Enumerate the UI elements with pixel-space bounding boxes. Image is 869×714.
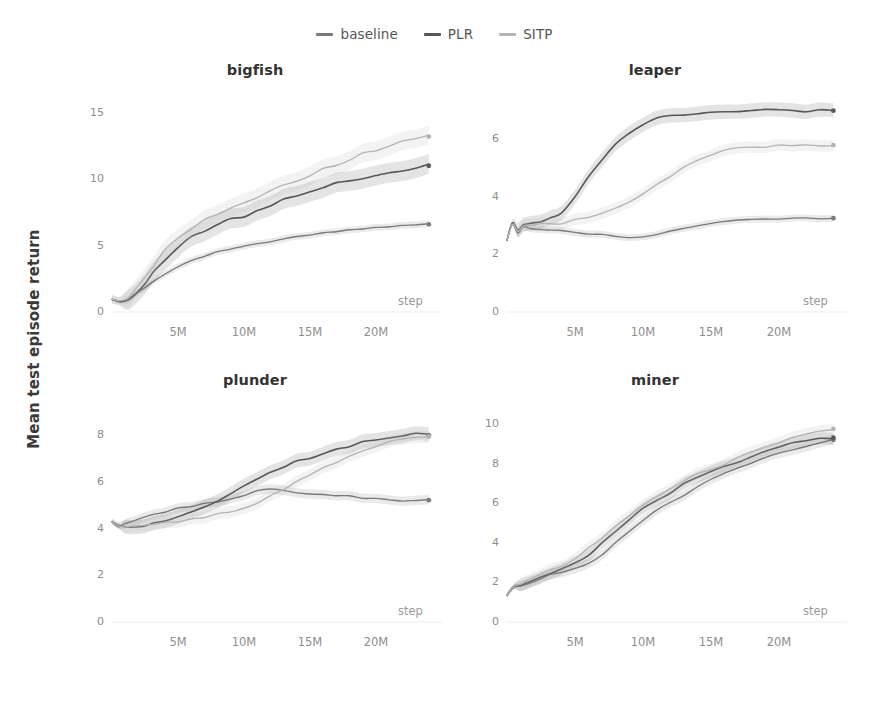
- plot-area-miner: [455, 398, 855, 672]
- y-tick-label: 15: [74, 106, 104, 119]
- series-endpoint-SITP: [831, 143, 836, 148]
- panel-title-miner: miner: [455, 372, 855, 388]
- plot-area-plunder: [60, 398, 450, 672]
- x-tick-label: 5M: [158, 325, 198, 339]
- y-tick-label: 2: [469, 575, 499, 588]
- panel-bigfish: bigfish 0510155M10M15M20Mstep: [60, 62, 450, 362]
- panel-leaper: leaper 02465M10M15M20Mstep: [455, 62, 855, 362]
- y-tick-label: 0: [469, 305, 499, 318]
- x-tick-label: 15M: [691, 635, 731, 649]
- series-endpoint-PLR: [831, 108, 836, 113]
- legend-item-plr[interactable]: PLR: [424, 26, 473, 42]
- plot-area-bigfish: [60, 88, 450, 362]
- y-tick-label: 6: [469, 496, 499, 509]
- y-tick-label: 6: [469, 132, 499, 145]
- x-tick-label: 20M: [356, 635, 396, 649]
- x-tick-label: 15M: [691, 325, 731, 339]
- x-tick-label: 20M: [759, 325, 799, 339]
- y-tick-label: 8: [74, 428, 104, 441]
- legend-item-sitp[interactable]: SITP: [499, 26, 552, 42]
- legend-label-baseline: baseline: [340, 26, 397, 42]
- x-axis-caption: step: [803, 294, 828, 308]
- y-tick-label: 10: [74, 172, 104, 185]
- series-endpoint-baseline: [426, 498, 431, 503]
- x-axis-caption: step: [398, 294, 423, 308]
- y-tick-label: 4: [469, 536, 499, 549]
- y-tick-label: 0: [469, 615, 499, 628]
- y-tick-label: 6: [74, 475, 104, 488]
- legend-swatch-plr: [424, 33, 441, 36]
- y-tick-label: 0: [74, 305, 104, 318]
- panel-title-bigfish: bigfish: [60, 62, 450, 78]
- x-tick-label: 5M: [158, 635, 198, 649]
- y-axis-label: Mean test episode return: [25, 209, 43, 469]
- series-endpoint-baseline: [831, 216, 836, 221]
- y-tick-label: 5: [74, 239, 104, 252]
- legend-swatch-sitp: [499, 33, 516, 36]
- figure-root: baseline PLR SITP Mean test episode retu…: [0, 0, 869, 714]
- y-tick-label: 0: [74, 615, 104, 628]
- legend-swatch-baseline: [316, 33, 333, 36]
- series-endpoint-SITP: [426, 434, 431, 439]
- legend-label-sitp: SITP: [523, 26, 552, 42]
- confidence-band-PLR: [112, 154, 429, 310]
- x-tick-label: 20M: [759, 635, 799, 649]
- figure-legend: baseline PLR SITP: [0, 26, 869, 42]
- y-tick-label: 10: [469, 417, 499, 430]
- x-tick-label: 10M: [623, 635, 663, 649]
- confidence-band-SITP: [507, 139, 833, 243]
- y-tick-label: 4: [74, 522, 104, 535]
- x-tick-label: 10M: [623, 325, 663, 339]
- x-tick-label: 5M: [555, 325, 595, 339]
- confidence-band-SITP: [112, 431, 429, 533]
- x-axis-caption: step: [803, 604, 828, 618]
- y-tick-label: 8: [469, 457, 499, 470]
- x-axis-caption: step: [398, 604, 423, 618]
- legend-label-plr: PLR: [448, 26, 473, 42]
- series-endpoint-PLR: [831, 435, 836, 440]
- panel-miner: miner 02468105M10M15M20Mstep: [455, 372, 855, 672]
- panel-title-plunder: plunder: [60, 372, 450, 388]
- series-endpoint-SITP: [831, 426, 836, 431]
- series-endpoint-baseline: [426, 222, 431, 227]
- x-tick-label: 15M: [290, 325, 330, 339]
- y-tick-label: 2: [469, 247, 499, 260]
- panel-title-leaper: leaper: [455, 62, 855, 78]
- x-tick-label: 10M: [224, 325, 264, 339]
- y-tick-label: 2: [74, 568, 104, 581]
- x-tick-label: 15M: [290, 635, 330, 649]
- x-tick-label: 5M: [555, 635, 595, 649]
- series-endpoint-SITP: [426, 134, 431, 139]
- x-tick-label: 20M: [356, 325, 396, 339]
- x-tick-label: 10M: [224, 635, 264, 649]
- legend-item-baseline[interactable]: baseline: [316, 26, 397, 42]
- plot-area-leaper: [455, 88, 855, 362]
- y-tick-label: 4: [469, 190, 499, 203]
- panel-plunder: plunder 024685M10M15M20Mstep: [60, 372, 450, 672]
- series-endpoint-PLR: [426, 163, 431, 168]
